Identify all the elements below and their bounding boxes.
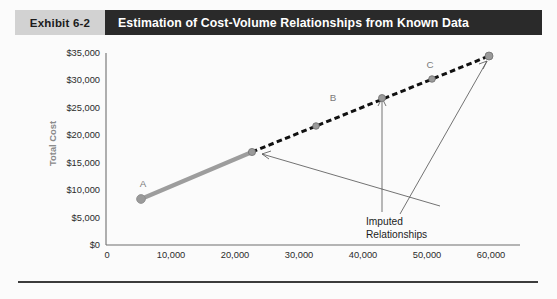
x-tick-label-10000: 10,000 bbox=[157, 250, 185, 260]
exhibit-figure: Exhibit 6-2 Estimation of Cost-Volume Re… bbox=[0, 0, 557, 299]
data-point-b bbox=[313, 123, 320, 130]
data-point-endpoint bbox=[485, 52, 493, 60]
x-tick-label-60000: 60,000 bbox=[477, 250, 505, 260]
x-tick-label-0: 0 bbox=[104, 250, 109, 260]
cost-volume-chart: $35,000 $30,000 $25,000 $20,000 $15,000 … bbox=[0, 36, 557, 261]
exhibit-number-tag: Exhibit 6-2 bbox=[15, 10, 105, 35]
exhibit-title: Estimation of Cost-Volume Relationships … bbox=[105, 10, 542, 35]
data-point-label-b: B bbox=[330, 92, 337, 103]
x-tick-label-50000: 50,000 bbox=[413, 250, 441, 260]
y-tick-label-25000: $25,000 bbox=[66, 103, 100, 113]
data-point-a bbox=[137, 195, 146, 204]
y-tick-label-10000: $10,000 bbox=[66, 185, 100, 195]
imputed-relationship-line bbox=[252, 56, 489, 152]
x-tick-label-30000: 30,000 bbox=[285, 250, 313, 260]
imputed-annotation-line2: Relationships bbox=[366, 229, 427, 240]
y-axis-title: Total Cost bbox=[47, 121, 58, 166]
y-tick-label-20000: $20,000 bbox=[66, 130, 100, 140]
exhibit-header: Exhibit 6-2 Estimation of Cost-Volume Re… bbox=[15, 10, 542, 35]
y-tick-label-0: $0 bbox=[90, 240, 100, 250]
y-tick-label-30000: $30,000 bbox=[66, 75, 100, 85]
chart-area: $35,000 $30,000 $25,000 $20,000 $15,000 … bbox=[0, 36, 557, 261]
y-tick-label-15000: $15,000 bbox=[66, 158, 100, 168]
x-tick-label-20000: 20,000 bbox=[221, 250, 249, 260]
data-point-c bbox=[429, 76, 436, 83]
imputed-annotation-line1: Imputed bbox=[366, 216, 403, 227]
leader-arrow-to-point-d bbox=[378, 98, 386, 212]
data-point-label-c: C bbox=[426, 59, 433, 70]
known-relationship-line bbox=[141, 152, 252, 199]
data-point-junction bbox=[248, 148, 255, 155]
bottom-divider bbox=[18, 281, 538, 283]
x-tick-label-40000: 40,000 bbox=[349, 250, 377, 260]
leader-arrow-to-junction bbox=[262, 151, 440, 206]
leader-arrow-to-endpoint bbox=[400, 61, 487, 214]
data-point-d bbox=[379, 95, 386, 102]
y-tick-label-35000: $35,000 bbox=[66, 48, 100, 58]
y-tick-label-5000: $5,000 bbox=[72, 213, 100, 223]
data-point-label-a: A bbox=[140, 178, 147, 189]
